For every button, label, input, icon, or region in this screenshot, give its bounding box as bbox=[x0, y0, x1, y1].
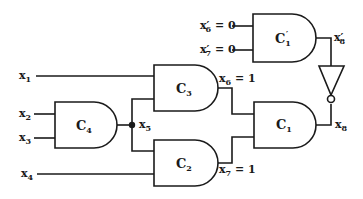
wire-x7 bbox=[218, 137, 254, 163]
signal-label-x6-prime: x′6 = 0 bbox=[200, 19, 236, 34]
circuit-diagram: C1′ C3 C4 C2 C1 x1 x2 x3 x4 x5 x6 = 1 x7… bbox=[0, 0, 363, 199]
signal-label-x1: x1 bbox=[19, 69, 31, 84]
wire-x8 bbox=[316, 104, 331, 125]
inverter-gate bbox=[319, 66, 344, 103]
inverter-bubble bbox=[328, 96, 335, 103]
signal-label-x8-prime: x′8 bbox=[334, 31, 345, 46]
signal-label-x6: x6 = 1 bbox=[219, 72, 256, 87]
signal-label-x7: x7 = 1 bbox=[219, 163, 256, 178]
wire-x6 bbox=[218, 88, 254, 114]
signal-label-x5: x5 bbox=[139, 118, 151, 133]
signal-label-x8: x8 bbox=[335, 118, 348, 133]
signal-label-x3: x3 bbox=[19, 131, 32, 146]
wire-x8p bbox=[316, 38, 331, 66]
signal-label-x7-prime: x′7 = 0 bbox=[200, 43, 236, 58]
signal-label-x2: x2 bbox=[19, 107, 31, 122]
signal-label-x4: x4 bbox=[21, 167, 34, 182]
circuit-svg: C1′ C3 C4 C2 C1 x1 x2 x3 x4 x5 x6 = 1 x7… bbox=[0, 0, 363, 199]
junction-dot-x5 bbox=[129, 122, 135, 128]
